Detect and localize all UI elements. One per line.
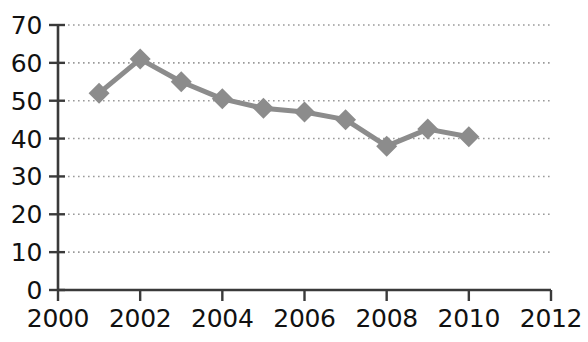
y-axis-tick-label: 10	[11, 240, 42, 265]
data-point-marker	[458, 126, 479, 147]
chart-canvas	[0, 0, 588, 342]
data-point-marker	[417, 119, 438, 140]
data-point-marker	[171, 71, 192, 92]
line-chart: 010203040506070 200020022004200620082010…	[0, 0, 588, 342]
x-axis-tick-label: 2004	[191, 306, 253, 331]
axis-ticks	[49, 25, 551, 301]
y-axis-tick-label: 50	[11, 88, 42, 113]
x-axis-tick-label: 2006	[273, 306, 335, 331]
x-axis-tick-label: 2010	[438, 306, 500, 331]
data-point-marker	[212, 88, 233, 109]
data-line	[99, 59, 469, 146]
y-axis-tick-label: 0	[26, 278, 42, 303]
x-axis-tick-label: 2008	[355, 306, 417, 331]
y-axis-tick-label: 40	[11, 126, 42, 151]
x-axis-tick-label: 2000	[27, 306, 89, 331]
y-axis-tick-label: 60	[11, 50, 42, 75]
x-axis-tick-label: 2012	[520, 306, 582, 331]
y-axis-tick-label: 30	[11, 164, 42, 189]
x-axis-tick-label: 2002	[109, 306, 171, 331]
data-point-marker	[294, 102, 315, 123]
data-point-marker	[253, 98, 274, 119]
y-axis-tick-label: 70	[11, 13, 42, 38]
y-axis-tick-label: 20	[11, 202, 42, 227]
